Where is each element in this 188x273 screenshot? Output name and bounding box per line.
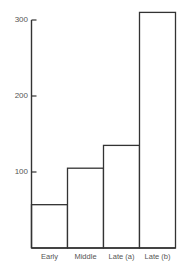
x-category-label: Late (b) — [140, 252, 176, 261]
bar-late-a — [104, 145, 140, 248]
bar-early — [32, 205, 68, 248]
y-tick-label: 200 — [4, 91, 28, 100]
bar-chart: 100200300 EarlyMiddleLate (a)Late (b) — [0, 0, 188, 273]
bar-late-b — [140, 12, 176, 248]
plot-area — [0, 0, 188, 273]
x-category-label: Late (a) — [104, 252, 140, 261]
y-tick-label: 300 — [4, 15, 28, 24]
y-tick-label: 100 — [4, 167, 28, 176]
x-category-label: Early — [32, 252, 68, 261]
bar-middle — [68, 168, 104, 248]
x-category-label: Middle — [68, 252, 104, 261]
